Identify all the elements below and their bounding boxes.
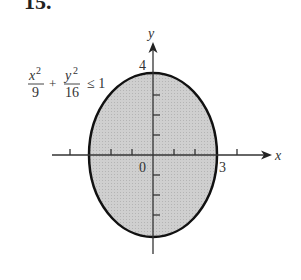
x-intercept-label: 3 — [219, 160, 226, 175]
origin-label: 0 — [139, 160, 146, 175]
y-intercept-label: 4 — [139, 58, 146, 73]
y-squared-numerator: y — [63, 68, 72, 83]
plus-sign: + — [49, 76, 56, 91]
ellipse-diagram: y x 0 3 4 x 2 9 + y 2 16 ≤ 1 — [0, 0, 301, 280]
x-exponent: 2 — [36, 65, 41, 76]
x-denominator: 9 — [32, 85, 39, 100]
x-squared-numerator: x — [28, 68, 36, 83]
y-denominator: 16 — [65, 85, 79, 100]
x-axis-label: x — [274, 148, 282, 163]
relation: ≤ 1 — [87, 76, 105, 91]
y-exponent: 2 — [73, 65, 78, 76]
inequality-label: x 2 9 + y 2 16 ≤ 1 — [28, 65, 105, 100]
y-axis-label: y — [146, 26, 155, 41]
